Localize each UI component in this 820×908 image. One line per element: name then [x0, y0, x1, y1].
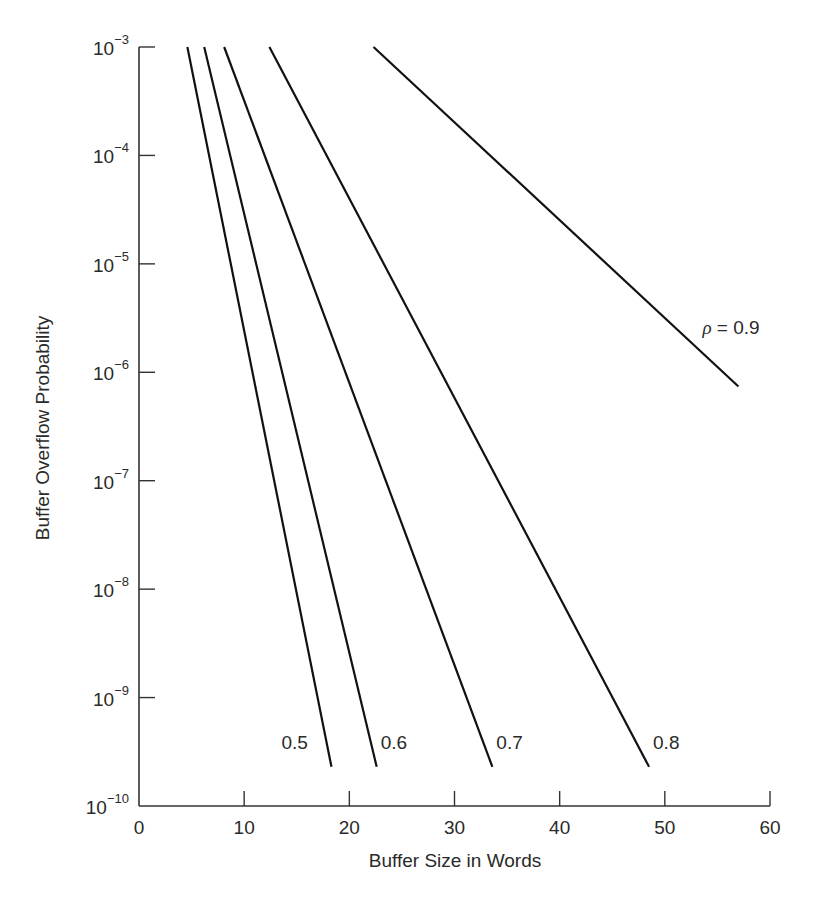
y-tick-label: 10−8 — [93, 574, 129, 601]
y-tick-label: 10−10 — [86, 791, 129, 818]
x-tick-label: 60 — [759, 817, 780, 838]
y-tick-label: 10−6 — [93, 357, 129, 384]
x-axis-title: Buffer Size in Words — [369, 850, 541, 871]
x-tick-label: 0 — [134, 817, 145, 838]
curve-label-0.8: 0.8 — [653, 732, 679, 753]
curves — [187, 47, 738, 767]
curve-label-0.6: 0.6 — [381, 732, 407, 753]
y-tick-label: 10−9 — [93, 683, 129, 710]
y-tick-label: 10−4 — [93, 140, 129, 167]
y-axis-title: Buffer Overflow Probability — [32, 315, 53, 540]
x-tick-label: 40 — [549, 817, 570, 838]
curve-rho-0.5 — [187, 47, 331, 767]
x-tick-label: 10 — [234, 817, 255, 838]
curve-rho-0.6 — [204, 47, 376, 767]
x-tick-label: 20 — [339, 817, 360, 838]
y-tick-label: 10−7 — [93, 466, 129, 493]
axes: 10−310−410−510−610−710−810−910−100102030… — [86, 32, 781, 838]
curve-label-0.7: 0.7 — [496, 732, 522, 753]
x-tick-label: 30 — [444, 817, 465, 838]
y-tick-label: 10−5 — [93, 249, 129, 276]
x-tick-label: 50 — [654, 817, 675, 838]
y-tick-label: 10−3 — [93, 32, 129, 59]
curve-rho-0.7 — [224, 47, 492, 767]
curve-rho-0.8 — [269, 47, 649, 767]
curve-label-0.9: ρ = 0.9 — [701, 317, 759, 338]
curve-label-0.5: 0.5 — [281, 732, 307, 753]
buffer-overflow-chart: 10−310−410−510−610−710−810−910−100102030… — [0, 0, 820, 908]
curve-rho-0.9 — [374, 47, 739, 386]
labels: Buffer Size in WordsBuffer Overflow Prob… — [32, 315, 760, 871]
